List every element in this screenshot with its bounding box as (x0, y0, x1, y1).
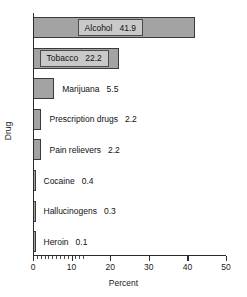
bar-row: Tobacco22.2 (33, 48, 226, 69)
bar-value-label: 0.1 (76, 237, 88, 247)
bar-category-label: Tobacco (47, 53, 79, 63)
bar-label: Heroin0.1 (36, 231, 88, 252)
y-axis-title: Drug (3, 111, 13, 151)
x-axis-line (33, 255, 226, 256)
bar-label: Pain relievers2.2 (41, 139, 119, 160)
bar-row: Prescription drugs2.2 (33, 109, 226, 130)
x-tick-label: 50 (214, 262, 238, 272)
bar-category-label: Hallucinogens (44, 206, 97, 216)
bar-label: Cocaine0.4 (36, 170, 94, 191)
x-tick-minor (68, 256, 69, 259)
bar-label: Tobacco22.2 (40, 50, 109, 67)
bar-label: Alcohol41.9 (78, 19, 143, 36)
bar-category-label: Prescription drugs (49, 114, 118, 124)
x-tick-major (226, 256, 227, 261)
x-tick-label: 30 (137, 262, 161, 272)
x-tick-minor (75, 256, 76, 259)
x-tick-label: 40 (175, 262, 199, 272)
plot-area: Alcohol41.9Tobacco22.2Marijuana5.5Prescr… (0, 0, 247, 297)
bar-row: Heroin0.1 (33, 231, 226, 252)
bar-value-label: 5.5 (107, 84, 119, 94)
x-tick-major (110, 256, 111, 261)
x-tick-label: 0 (21, 262, 45, 272)
x-tick-minor (60, 256, 61, 259)
x-tick-minor (41, 256, 42, 259)
bar-row: Pain relievers2.2 (33, 139, 226, 160)
bar-value-label: 0.4 (82, 176, 94, 186)
bar-label: Marijuana5.5 (54, 78, 118, 99)
bar-label: Hallucinogens0.3 (36, 201, 116, 222)
x-tick-minor (45, 256, 46, 259)
x-axis-title: Percent (0, 278, 247, 288)
bar-value-label: 0.3 (104, 206, 116, 216)
x-tick-minor (79, 256, 80, 259)
bar-category-label: Alcohol (85, 23, 113, 33)
x-tick-minor (64, 256, 65, 259)
x-tick-minor (52, 256, 53, 259)
x-tick-minor (37, 256, 38, 259)
bar-chart: Alcohol41.9Tobacco22.2Marijuana5.5Prescr… (0, 0, 247, 297)
x-tick-label: 10 (60, 262, 84, 272)
bar-category-label: Cocaine (44, 176, 75, 186)
x-tick-major (187, 256, 188, 261)
bar-label: Prescription drugs2.2 (41, 109, 136, 130)
x-tick-minor (56, 256, 57, 259)
bar-value-label: 22.2 (85, 53, 102, 63)
bar-row: Hallucinogens0.3 (33, 201, 226, 222)
bar-row: Marijuana5.5 (33, 78, 226, 99)
x-tick-minor (48, 256, 49, 259)
bar-category-label: Marijuana (62, 84, 99, 94)
x-tick-major (72, 256, 73, 261)
bar-category-label: Heroin (44, 237, 69, 247)
y-axis-line (33, 13, 34, 255)
x-tick-minor (83, 256, 84, 259)
x-tick-major (149, 256, 150, 261)
bar-value-label: 2.2 (125, 114, 137, 124)
bar-category-label: Pain relievers (49, 145, 101, 155)
bar-value-label: 41.9 (120, 23, 137, 33)
bar-value-label: 2.2 (108, 145, 120, 155)
bar-row: Cocaine0.4 (33, 170, 226, 191)
x-tick-major (33, 256, 34, 261)
bar-row: Alcohol41.9 (33, 17, 226, 38)
bar (33, 78, 54, 99)
x-tick-label: 20 (98, 262, 122, 272)
